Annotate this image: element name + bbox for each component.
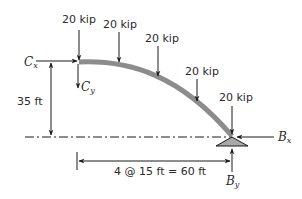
by-label: By [225, 174, 240, 189]
load-label-1: 20 kip [62, 13, 96, 26]
bx-label: Bx [277, 130, 292, 145]
load-label-4: 20 kip [185, 65, 219, 78]
cx-label: Cx [24, 55, 38, 70]
pin-support [216, 137, 248, 146]
height-dimension-label: 35 ft [17, 95, 43, 108]
load-arrows [79, 30, 232, 134]
load-label-5: 20 kip [219, 91, 253, 104]
load-label-3: 20 kip [145, 32, 179, 45]
arch-diagram: 20 kip 20 kip 20 kip 20 kip 20 kip Cx Cy… [0, 0, 302, 199]
cy-label: Cy [81, 80, 95, 95]
span-dimension-label: 4 @ 15 ft = 60 ft [114, 165, 207, 178]
load-label-2: 20 kip [103, 18, 137, 31]
